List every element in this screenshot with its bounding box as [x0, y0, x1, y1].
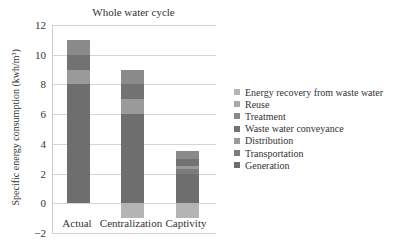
bar-segment	[67, 40, 90, 55]
bar-segment	[67, 70, 90, 85]
bar-segment	[121, 70, 144, 85]
bar-segment	[67, 55, 90, 70]
bar-centralization	[121, 25, 144, 233]
y-tick-label: 8	[24, 78, 46, 90]
legend-item: Treatment	[234, 110, 383, 122]
legend-item: Transportation	[234, 147, 383, 159]
y-tick-label: 10	[24, 49, 46, 61]
y-tick-label: 0	[24, 197, 46, 209]
legend-swatch-icon	[234, 138, 240, 144]
y-axis-label: Specific energy consumption (kwh/m³)	[10, 56, 21, 206]
bar-segment	[176, 151, 199, 158]
legend-label: Generation	[245, 160, 289, 171]
plot-area	[52, 25, 216, 234]
legend-swatch-icon	[234, 126, 240, 132]
legend-item: Energy recovery from waste water	[234, 86, 383, 98]
y-tick-label: 6	[24, 108, 46, 120]
legend-item: Waste water conveyance	[234, 123, 383, 135]
legend-swatch-icon	[234, 101, 240, 107]
legend: Energy recovery from waste waterReuseTre…	[234, 86, 383, 171]
gridline	[53, 233, 216, 234]
legend-label: Waste water conveyance	[245, 123, 344, 134]
legend-item: Generation	[234, 159, 383, 171]
bar-segment	[121, 203, 144, 218]
bar-segment	[176, 203, 199, 218]
y-tick-label: 4	[24, 138, 46, 150]
legend-label: Energy recovery from waste water	[245, 87, 383, 98]
chart-title: Whole water cycle	[52, 6, 215, 18]
y-tick-label: 12	[24, 19, 46, 31]
bar-segment	[67, 84, 90, 203]
legend-item: Distribution	[234, 135, 383, 147]
y-tick-label: 2	[24, 168, 46, 180]
bar-segment	[176, 169, 199, 173]
bar-segment	[121, 114, 144, 203]
legend-label: Reuse	[245, 99, 269, 110]
x-tick-label: Captivity	[146, 217, 226, 229]
legend-item: Reuse	[234, 98, 383, 110]
bar-segment	[176, 166, 199, 169]
bar-captivity	[176, 25, 199, 233]
bar-actual	[67, 25, 90, 233]
legend-swatch-icon	[234, 113, 240, 119]
legend-swatch-icon	[234, 89, 240, 95]
bar-segment	[121, 84, 144, 99]
bar-segment	[176, 174, 199, 204]
legend-swatch-icon	[234, 162, 240, 168]
legend-label: Transportation	[245, 148, 304, 159]
legend-swatch-icon	[234, 150, 240, 156]
legend-label: Treatment	[245, 111, 286, 122]
legend-label: Distribution	[245, 135, 293, 146]
bar-segment	[121, 99, 144, 114]
bar-segment	[176, 159, 199, 166]
